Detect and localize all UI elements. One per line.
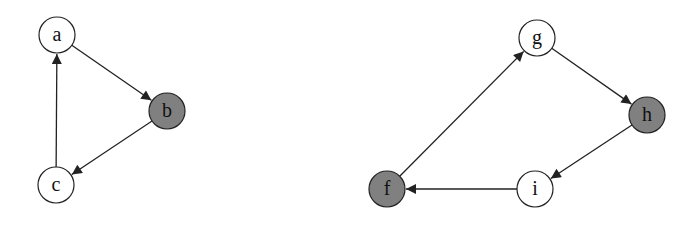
node-label: i (532, 177, 538, 199)
edge-c-to-a (56, 54, 57, 167)
node-c: c (38, 167, 74, 203)
node-label: c (52, 173, 61, 195)
node-f: f (369, 171, 405, 207)
edge-h-to-i (551, 125, 632, 179)
node-label: b (162, 99, 172, 121)
node-g: g (519, 20, 555, 56)
node-b: b (149, 93, 185, 129)
edge-b-to-c (72, 121, 152, 174)
node-a: a (39, 17, 75, 53)
node-label: f (384, 177, 391, 199)
edge-f-to-g (400, 51, 524, 176)
node-i: i (517, 171, 553, 207)
graph-canvas: abcghif (0, 0, 697, 226)
edges (56, 45, 632, 189)
edge-g-to-h (552, 48, 632, 104)
node-label: h (642, 103, 652, 125)
node-label: g (532, 26, 542, 49)
edge-a-to-b (72, 45, 152, 100)
node-label: a (53, 23, 62, 45)
nodes: abcghif (38, 17, 665, 207)
node-h: h (629, 97, 665, 133)
